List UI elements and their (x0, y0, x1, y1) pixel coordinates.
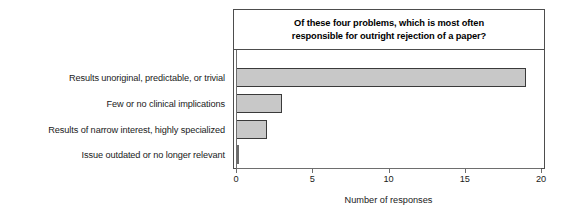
bar-chart-figure: Of these four problems, which is most of… (0, 0, 571, 218)
tick-label-5: 5 (310, 174, 315, 184)
value-axis-origin-line (236, 50, 237, 169)
bars-layer (236, 50, 545, 169)
bar-narrow-interest (236, 120, 267, 139)
chart-title-box: Of these four problems, which is most of… (233, 9, 545, 50)
tick-10 (389, 169, 390, 173)
tick-0 (236, 169, 237, 173)
tick-label-15: 15 (460, 174, 470, 184)
category-label-1: Few or no clinical implications (107, 99, 225, 109)
bar-results-unoriginal (236, 68, 526, 87)
category-label-0: Results unoriginal, predictable, or triv… (69, 73, 225, 83)
tick-label-10: 10 (383, 174, 393, 184)
category-label-3: Issue outdated or no longer relevant (82, 150, 226, 160)
chart-title: Of these four problems, which is most of… (286, 17, 492, 42)
tick-label-20: 20 (536, 174, 546, 184)
chart-title-line-1: Of these four problems, which is most of… (294, 18, 484, 28)
chart-title-line-2: responsible for outright rejection of a … (292, 31, 486, 41)
bar-few-clinical-implications (236, 94, 282, 113)
value-axis-title: Number of responses (236, 195, 541, 205)
category-label-2: Results of narrow interest, highly speci… (48, 125, 225, 135)
tick-label-0: 0 (233, 174, 238, 184)
category-axis-labels: Results unoriginal, predictable, or triv… (0, 50, 230, 169)
tick-20 (541, 169, 542, 173)
tick-15 (465, 169, 466, 173)
tick-5 (312, 169, 313, 173)
